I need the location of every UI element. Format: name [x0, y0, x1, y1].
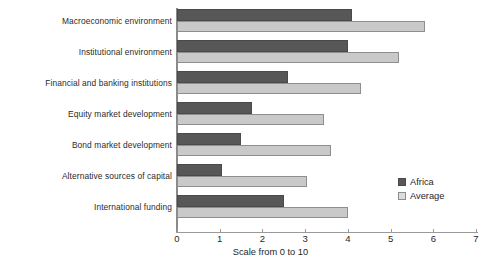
category-label: Equity market development: [68, 109, 172, 119]
legend-label-africa: Africa: [410, 177, 434, 187]
bar-africa: [177, 133, 241, 145]
x-tick-mark: [220, 229, 221, 233]
x-tick-label: 0: [174, 233, 179, 244]
bar-average: [177, 176, 307, 187]
x-tick-mark: [476, 229, 477, 233]
x-tick-label: 3: [302, 233, 307, 244]
x-tick-label: 5: [388, 233, 393, 244]
bar-group: Equity market development: [177, 101, 476, 132]
bar-average: [177, 207, 348, 218]
category-label: Bond market development: [72, 140, 172, 150]
x-tick-mark: [348, 229, 349, 233]
category-label: Institutional environment: [79, 47, 172, 57]
bar-africa: [177, 195, 284, 207]
x-axis-title: Scale from 0 to 10: [0, 247, 485, 257]
x-tick-label: 2: [260, 233, 265, 244]
x-tick-mark: [177, 229, 178, 233]
category-label: Financial and banking institutions: [45, 78, 172, 88]
bar-average: [177, 145, 331, 156]
bar-africa: [177, 102, 252, 114]
x-tick-mark: [433, 229, 434, 233]
chart-legend: Africa Average: [398, 176, 444, 204]
bar-group: Institutional environment: [177, 39, 476, 70]
legend-swatch-africa-icon: [398, 178, 406, 186]
bar-africa: [177, 40, 348, 52]
x-tick-label: 7: [473, 233, 478, 244]
bar-africa: [177, 164, 222, 176]
bar-chart: Macroeconomic environmentInstitutional e…: [0, 0, 485, 266]
x-tick-mark: [262, 229, 263, 233]
legend-item-africa: Africa: [398, 176, 444, 188]
legend-swatch-average-icon: [398, 192, 406, 200]
x-tick-label: 6: [431, 233, 436, 244]
category-label: International funding: [94, 202, 172, 212]
bar-average: [177, 21, 425, 32]
bar-africa: [177, 9, 352, 21]
x-tick-label: 1: [217, 233, 222, 244]
x-tick-mark: [391, 229, 392, 233]
bar-group: Bond market development: [177, 132, 476, 163]
category-label: Macroeconomic environment: [62, 16, 172, 26]
bar-average: [177, 83, 361, 94]
bar-average: [177, 52, 399, 63]
x-tick-mark: [305, 229, 306, 233]
bar-africa: [177, 71, 288, 83]
category-label: Alternative sources of capital: [62, 171, 172, 181]
legend-item-average: Average: [398, 190, 444, 202]
legend-label-average: Average: [410, 191, 444, 201]
bar-group: Macroeconomic environment: [177, 8, 476, 39]
x-tick-label: 4: [345, 233, 350, 244]
bar-average: [177, 114, 324, 125]
bar-group: Financial and banking institutions: [177, 70, 476, 101]
